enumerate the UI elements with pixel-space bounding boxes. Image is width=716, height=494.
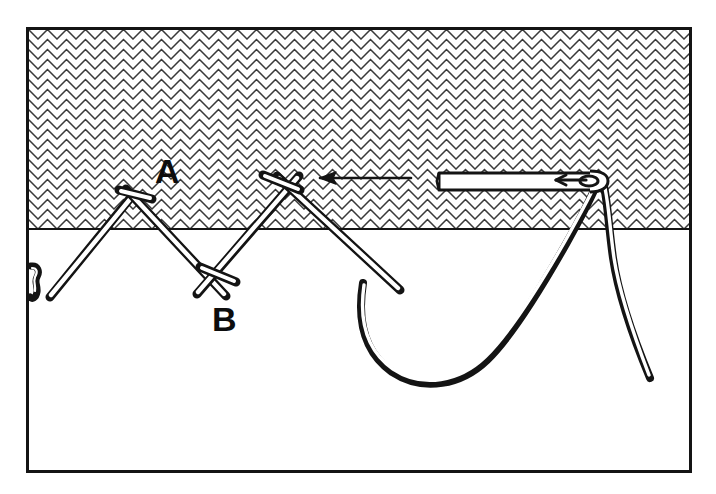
figure-stitch-diagram: A B [0,0,716,494]
page: STITCHES [0,0,716,494]
label-b: B [212,300,237,338]
label-a: A [155,152,180,190]
sewing-needle [437,171,608,192]
